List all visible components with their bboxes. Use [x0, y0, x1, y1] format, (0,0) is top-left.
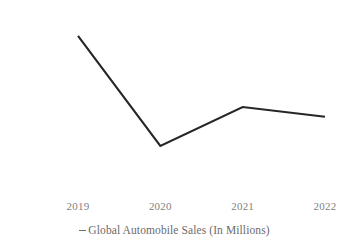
legend-entry-label: Global Automobile Sales (In Millions) — [88, 224, 269, 237]
x-axis-tick-label: 2022 — [295, 201, 349, 212]
chart-legend: Global Automobile Sales (In Millions) — [0, 224, 349, 237]
legend-line-marker-icon — [79, 230, 86, 231]
x-axis-tick-label: 2021 — [213, 201, 273, 212]
x-axis-tick-label: 2019 — [48, 201, 108, 212]
x-axis: 2019 2020 2021 2022 — [0, 0, 349, 249]
line-chart: 94 92 90 88 86 84 82 80 78 76 74 72 2019… — [0, 0, 349, 249]
x-axis-tick-label: 2020 — [130, 201, 190, 212]
